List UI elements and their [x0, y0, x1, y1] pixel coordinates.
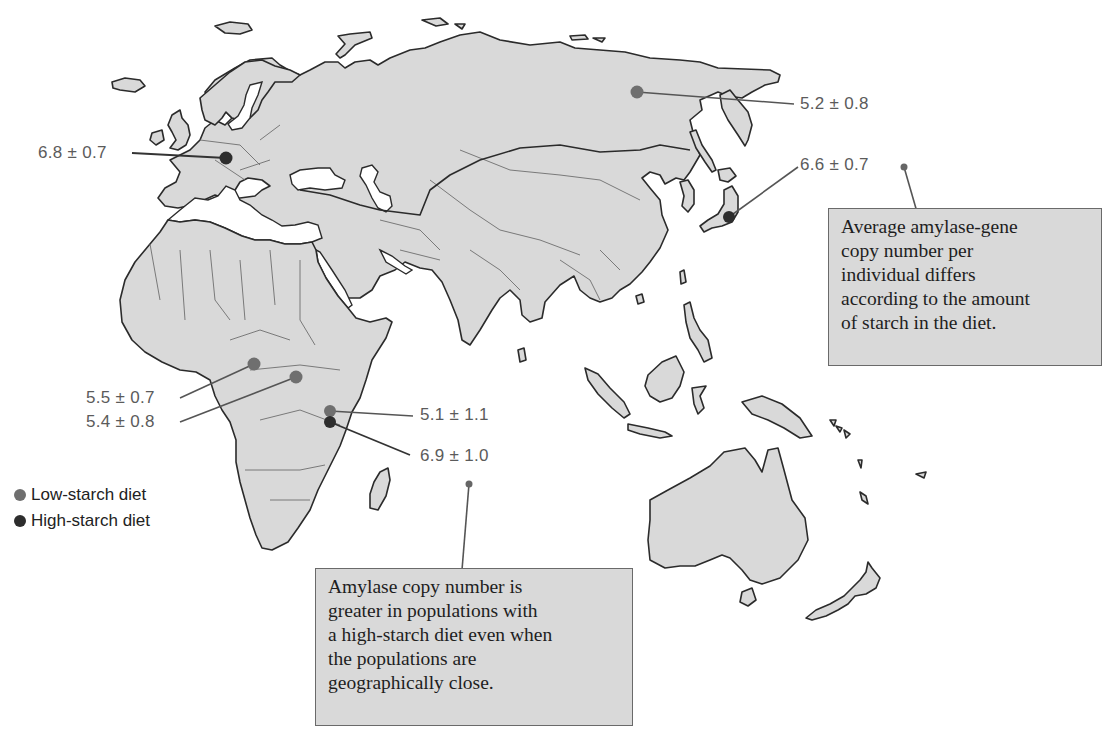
leader-anchor-note-bottom [466, 481, 473, 488]
landmass-iceland [112, 78, 145, 92]
landmass-madagascar [370, 468, 390, 510]
value-label-japan: 6.6 ± 0.7 [800, 155, 869, 175]
high-starch-dot-icon [14, 515, 26, 527]
note-line: Average amylase-gene [841, 215, 1091, 239]
value-label-siberia: 5.2 ± 0.8 [800, 94, 869, 114]
landmass-java [628, 424, 672, 438]
note-line: greater in populations with [328, 599, 622, 623]
leader-anchor-note-top [901, 164, 908, 171]
landmass-korea [680, 180, 694, 212]
landmass-britain [168, 110, 190, 150]
population-dot-europe-high [220, 152, 233, 165]
note-line: individual differs [841, 263, 1091, 287]
legend: Low-starch diet High-starch diet [14, 482, 150, 534]
leader-line-note-bottom [462, 484, 469, 570]
note-line: Amylase copy number is [328, 575, 622, 599]
landmass-australia [648, 448, 808, 584]
landmass-ireland [150, 130, 164, 145]
leader-line-note-top [904, 167, 917, 212]
landmass-sumatra [585, 368, 630, 418]
legend-label: Low-starch diet [31, 485, 146, 505]
landmass-borneo [645, 356, 684, 402]
population-dot-siberia-low [631, 86, 644, 99]
population-dot-africa-central-low [290, 371, 303, 384]
landmass-taiwan [680, 270, 686, 284]
landmass-hainan [636, 294, 644, 304]
value-label-africa-central: 5.4 ± 0.8 [86, 412, 155, 432]
legend-label: High-starch diet [31, 511, 150, 531]
population-dot-japan-high [723, 211, 735, 223]
landmass-philippines [684, 302, 712, 362]
landmass-pacific-islands [830, 420, 926, 504]
note-line: the populations are [328, 647, 622, 671]
population-dot-africa-west-low [248, 358, 261, 371]
note-line: a high-starch diet even when [328, 623, 622, 647]
legend-item-high-starch: High-starch diet [14, 508, 150, 534]
landmass-new-guinea [742, 396, 812, 438]
note-line: of starch in the diet. [841, 311, 1091, 335]
value-label-europe: 6.8 ± 0.7 [38, 143, 107, 163]
leader-line-japan [729, 167, 798, 217]
note-line: according to the amount [841, 287, 1091, 311]
landmass-sulawesi [692, 386, 706, 414]
landmass-svalbard [215, 22, 252, 34]
value-label-africa-east-low: 5.1 ± 1.1 [420, 405, 489, 425]
landmass-new-zealand [806, 562, 880, 620]
note-box-bottom: Amylase copy number is greater in popula… [315, 568, 633, 726]
legend-item-low-starch: Low-starch diet [14, 482, 150, 508]
landmass-japan [700, 186, 738, 232]
note-line: geographically close. [328, 671, 622, 695]
population-dot-africa-east-low [324, 405, 336, 417]
value-label-africa-west: 5.5 ± 0.7 [86, 388, 155, 408]
value-label-africa-east-high: 6.9 ± 1.0 [420, 446, 489, 466]
note-line: copy number per [841, 239, 1091, 263]
low-starch-dot-icon [14, 489, 26, 501]
landmass-tasmania [740, 588, 756, 606]
landmass-sri-lanka [518, 348, 526, 362]
landmass-novaya-zemlya [336, 32, 372, 58]
landmass-hokkaido [718, 168, 736, 182]
population-dot-africa-east-high [324, 416, 336, 428]
note-box-top-right: Average amylase-gene copy number per ind… [828, 208, 1102, 366]
